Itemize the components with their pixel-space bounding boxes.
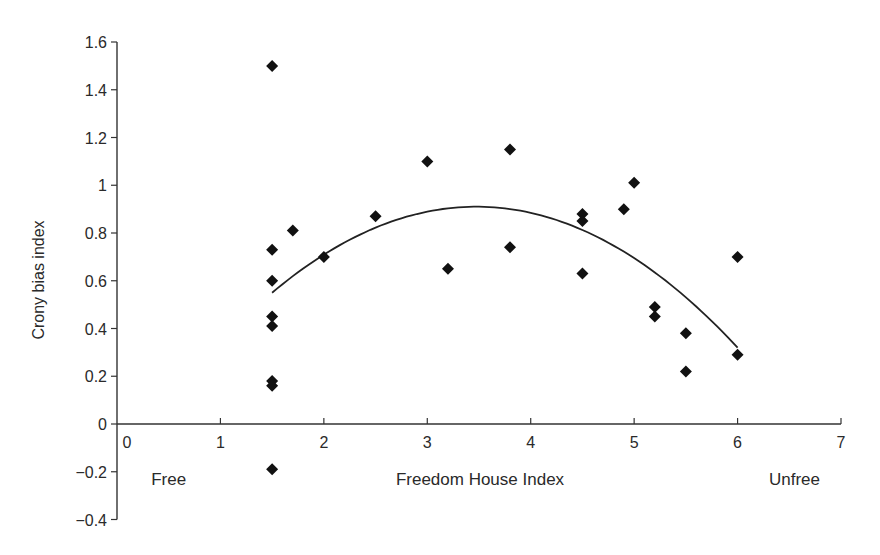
y-tick-label: 0.8 bbox=[85, 225, 107, 242]
data-point-diamond bbox=[421, 155, 433, 167]
data-points bbox=[266, 60, 743, 475]
quadratic-fit-curve bbox=[272, 207, 737, 348]
data-point-diamond bbox=[287, 225, 299, 237]
data-point-diamond bbox=[732, 349, 744, 361]
data-point-diamond bbox=[504, 143, 516, 155]
x-tick-label: 3 bbox=[423, 434, 432, 451]
data-point-diamond bbox=[628, 177, 640, 189]
y-tick-label: 0.6 bbox=[85, 273, 107, 290]
x-tick-label: 2 bbox=[319, 434, 328, 451]
data-point-diamond bbox=[680, 365, 692, 377]
data-point-diamond bbox=[680, 327, 692, 339]
scatter-chart: 1.61.41.210.80.60.40.20−0.2−0.4 01234567… bbox=[0, 0, 880, 555]
y-tick-label: 1 bbox=[98, 177, 107, 194]
x-axis-label: Freedom House Index bbox=[396, 470, 565, 489]
data-point-diamond bbox=[442, 263, 454, 275]
y-tick-label: 0.4 bbox=[85, 321, 107, 338]
x-tick-label: 1 bbox=[216, 434, 225, 451]
y-tick-label: −0.4 bbox=[75, 512, 107, 529]
data-point-diamond bbox=[266, 320, 278, 332]
data-point-diamond bbox=[266, 275, 278, 287]
data-point-diamond bbox=[370, 210, 382, 222]
axis-annotation: Unfree bbox=[769, 470, 820, 489]
axis-annotation: Free bbox=[151, 470, 186, 489]
x-tick-label: 7 bbox=[837, 434, 846, 451]
y-tick-label: −0.2 bbox=[75, 464, 107, 481]
y-tick-label: 0 bbox=[98, 416, 107, 433]
data-point-diamond bbox=[649, 311, 661, 323]
y-axis-label: Crony bias index bbox=[30, 220, 47, 339]
x-tick-label: 0 bbox=[123, 434, 132, 451]
data-point-diamond bbox=[504, 241, 516, 253]
data-point-diamond bbox=[266, 60, 278, 72]
x-tick-label: 5 bbox=[630, 434, 639, 451]
y-tick-label: 1.6 bbox=[85, 34, 107, 51]
y-tick-label: 1.4 bbox=[85, 82, 107, 99]
x-axis-ticks: 01234567 bbox=[123, 418, 846, 451]
y-axis-ticks: 1.61.41.210.80.60.40.20−0.2−0.4 bbox=[75, 34, 117, 529]
y-tick-label: 1.2 bbox=[85, 130, 107, 147]
data-point-diamond bbox=[266, 244, 278, 256]
data-point-diamond bbox=[576, 215, 588, 227]
y-tick-label: 0.2 bbox=[85, 368, 107, 385]
data-point-diamond bbox=[732, 251, 744, 263]
data-point-diamond bbox=[576, 268, 588, 280]
data-point-diamond bbox=[618, 203, 630, 215]
data-point-diamond bbox=[266, 463, 278, 475]
x-tick-label: 4 bbox=[526, 434, 535, 451]
x-tick-label: 6 bbox=[733, 434, 742, 451]
